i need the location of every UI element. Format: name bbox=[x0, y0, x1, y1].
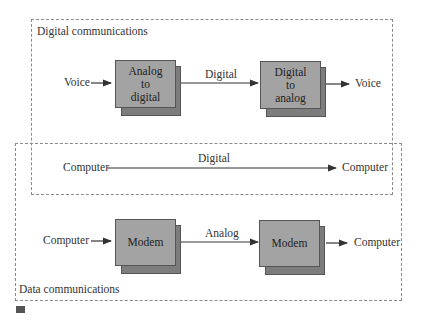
modem-label: Modem bbox=[128, 236, 164, 249]
voice-input-label: Voice bbox=[64, 77, 90, 89]
modem-box-1: Modem bbox=[115, 219, 181, 274]
modem-box-2: Modem bbox=[259, 220, 325, 275]
analog-link-label: Analog bbox=[205, 228, 239, 240]
modem-label: Modem bbox=[272, 237, 308, 250]
box-line: to bbox=[275, 79, 307, 92]
digital-to-analog-box: Digital to analog bbox=[260, 61, 326, 117]
section-marker bbox=[16, 306, 25, 313]
box-line: to bbox=[129, 78, 163, 91]
digital-link-label: Digital bbox=[205, 69, 237, 81]
computer-output-label: Computer bbox=[342, 162, 388, 174]
computer-output-label-3: Computer bbox=[354, 237, 400, 249]
digital-link-label-2: Digital bbox=[198, 153, 230, 165]
box-line: digital bbox=[129, 91, 163, 104]
box-line: Analog bbox=[129, 65, 163, 78]
voice-output-label: Voice bbox=[355, 78, 381, 90]
analog-to-digital-box: Analog to digital bbox=[115, 60, 181, 116]
computer-input-label-3: Computer bbox=[43, 235, 89, 247]
box-line: analog bbox=[275, 92, 307, 105]
computer-input-label: Computer bbox=[63, 162, 109, 174]
box-line: Digital bbox=[275, 66, 307, 79]
